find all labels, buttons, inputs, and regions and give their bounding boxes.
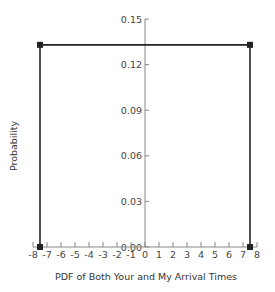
chart-svg: 0.000.030.060.090.120.15 -8-7-6-5-4-3-2-… — [0, 0, 275, 292]
data-point-marker — [247, 42, 253, 48]
x-tick-label: -2 — [112, 249, 121, 260]
data-point-marker — [37, 42, 43, 48]
x-tick-label: -5 — [70, 249, 79, 260]
data-point-marker — [37, 244, 43, 250]
x-tick-label: 4 — [198, 249, 204, 260]
y-tick-label: 0.09 — [121, 105, 142, 116]
x-axis: -8-7-6-5-4-3-2-1012345678 — [28, 242, 260, 260]
y-tick-label: 0.15 — [121, 14, 142, 25]
x-tick-label: 0 — [142, 249, 148, 260]
x-axis-label: PDF of Both Your and My Arrival Times — [55, 271, 237, 282]
x-tick-label: 2 — [170, 249, 176, 260]
x-tick-label: 8 — [254, 249, 260, 260]
x-tick-label: 3 — [184, 249, 190, 260]
data-point-marker — [247, 244, 253, 250]
y-tick-label: 0.03 — [121, 196, 142, 207]
x-tick-label: -4 — [84, 249, 93, 260]
x-tick-label: 1 — [156, 249, 162, 260]
x-tick-label: -3 — [98, 249, 107, 260]
x-tick-label: -6 — [56, 249, 65, 260]
y-tick-label: 0.12 — [121, 59, 142, 70]
x-tick-label: 6 — [226, 249, 232, 260]
x-tick-label: 5 — [212, 249, 218, 260]
y-axis-label: Probability — [8, 121, 19, 172]
x-tick-label: 7 — [240, 249, 246, 260]
x-tick-label: -7 — [42, 249, 51, 260]
x-tick-label: -1 — [126, 249, 135, 260]
x-tick-label: -8 — [28, 249, 37, 260]
y-tick-label: 0.06 — [121, 150, 142, 161]
y-axis: 0.000.030.060.090.120.15 — [121, 14, 149, 253]
